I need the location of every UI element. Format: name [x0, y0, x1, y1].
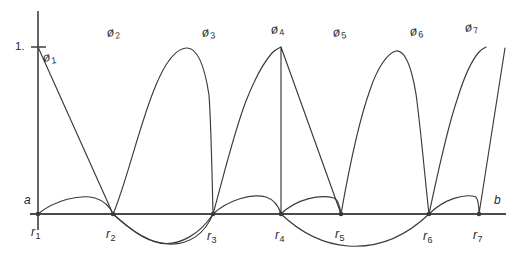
node-label-r5-sub: 5 [339, 233, 344, 243]
node-label-r6-sub: 6 [427, 235, 432, 245]
curve-label-phi-3: ø3 [201, 25, 216, 42]
curve-label-phi-1: ø1 [42, 50, 57, 67]
curve-label-phi-7: ø7 [464, 20, 479, 37]
curve-label-phi-6: ø6 [409, 24, 424, 41]
node-label-r4: r4 [275, 229, 285, 244]
node-label-r5: r5 [335, 228, 345, 243]
curve-label-phi-2: ø2 [106, 25, 121, 42]
node-label-r2: r2 [106, 228, 116, 243]
curve-label-phi-5: ø5 [332, 25, 347, 42]
node-label-r7: r7 [473, 229, 483, 244]
y-tick-label: 1. [15, 41, 25, 53]
curve-phi-2 [38, 48, 213, 214]
node-label-r6: r6 [423, 230, 433, 245]
node-label-r7-sub: 7 [477, 234, 482, 244]
curve-label-phi-4: ø4 [270, 22, 285, 39]
node-label-r2-sub: 2 [110, 233, 115, 243]
endpoint-label-b: b [494, 194, 501, 206]
endpoint-label-a: a [24, 194, 31, 206]
node-label-r4-sub: 4 [279, 234, 284, 244]
curve-phi-4 [213, 47, 341, 214]
figure-root: 1. a b ø1 ø2 ø3 ø4 ø5 ø6 ø7 r1 r2 r3 r4 … [0, 0, 523, 269]
node-label-r3: r3 [207, 230, 217, 245]
node-label-r3-sub: 3 [211, 235, 216, 245]
node-label-r1: r1 [31, 226, 41, 241]
node-label-r1-sub: 1 [35, 231, 40, 241]
plot-canvas [0, 0, 523, 269]
curve-phi-5 [281, 51, 429, 214]
curve-phi-6 [281, 47, 486, 246]
